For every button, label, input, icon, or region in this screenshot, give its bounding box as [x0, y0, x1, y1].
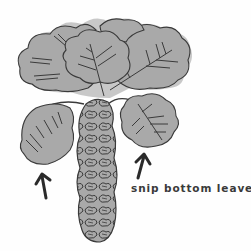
brussels-sprouts-drawing: [0, 0, 251, 251]
leaf-bottom-left: [20, 104, 73, 164]
left-arrow: [36, 174, 50, 198]
caption-text: snip bottom leaves.: [131, 182, 251, 194]
upper-leaves: [18, 18, 192, 98]
sprouts-stalk: [77, 99, 117, 242]
illustration-canvas: snip bottom leaves.: [0, 0, 251, 251]
right-arrow: [136, 154, 150, 178]
